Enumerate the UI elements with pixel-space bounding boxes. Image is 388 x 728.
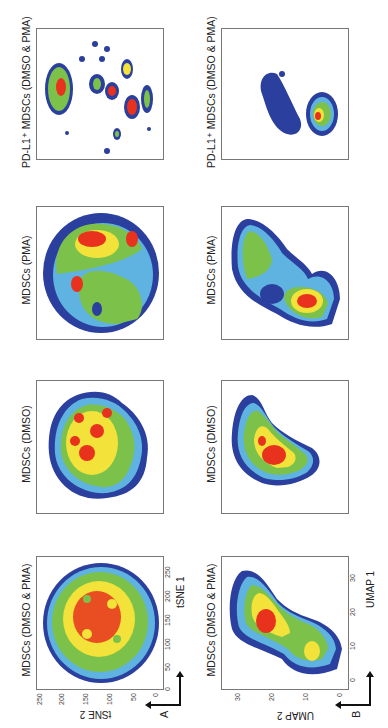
y-axis-arrow-b	[340, 704, 370, 706]
y-tick: 200	[58, 693, 65, 705]
plot-title: MDSCs (DMSO)	[205, 374, 217, 514]
density-map	[37, 29, 163, 159]
plot-a-dmso: MDSCs (DMSO)	[20, 374, 180, 514]
plot-area	[221, 28, 349, 160]
x-axis-arrowhead-b	[366, 671, 374, 677]
panel-letter-a: A	[158, 711, 170, 718]
x-tick: 30	[349, 574, 356, 582]
y-tick: 0	[152, 693, 159, 697]
plot-area	[36, 206, 164, 340]
x-tick: 0	[164, 687, 171, 691]
plot-a-pdl1: PD-L1⁺ MDSCs (DMSO & PMA)	[20, 8, 180, 168]
y-tick: 250	[36, 693, 43, 705]
x-tick: 20	[349, 608, 356, 616]
x-tick: 250	[164, 566, 171, 578]
plot-title: MDSCs (PMA)	[205, 200, 217, 340]
plot-b-dmso-pma: MDSCs (DMSO & PMA) 0 10 20 30	[205, 550, 365, 690]
y-tick: 30	[234, 693, 241, 701]
y-tick: 150	[82, 693, 89, 705]
plot-area	[221, 206, 349, 340]
density-map	[222, 557, 348, 689]
density-map	[222, 207, 348, 339]
plot-title: MDSCs (DMSO)	[20, 374, 32, 514]
y-tick: 100	[106, 693, 113, 705]
plot-b-dmso: MDSCs (DMSO)	[205, 374, 365, 514]
density-map	[37, 381, 163, 513]
density-map	[37, 557, 163, 689]
x-tick: 0	[349, 678, 356, 682]
panel-letter-b: B	[350, 711, 362, 718]
plot-area	[36, 380, 164, 514]
y-axis-arrow-a	[150, 704, 180, 706]
plot-title: PD-L1⁺ MDSCs (DMSO & PMA)	[20, 18, 32, 168]
plot-b-pma: MDSCs (PMA)	[205, 200, 365, 340]
density-map	[222, 29, 348, 159]
plot-area	[36, 556, 164, 690]
plot-title: MDSCs (PMA)	[20, 200, 32, 340]
plot-title: PD-L1⁺ MDSCs (DMSO & PMA)	[205, 18, 217, 168]
density-map	[37, 207, 163, 339]
x-tick: 150	[164, 614, 171, 626]
y-tick: 20	[268, 693, 275, 701]
y-axis-label-b: UMAP 2	[277, 710, 314, 721]
plot-title: MDSCs (DMSO & PMA)	[205, 550, 217, 690]
y-axis-label-a: tSNE 2	[80, 709, 112, 720]
plot-area	[221, 380, 349, 514]
plot-area	[36, 28, 164, 160]
x-axis-label-b: UMAP 1	[365, 571, 376, 608]
plot-area	[221, 556, 349, 690]
plot-b-pdl1: PD-L1⁺ MDSCs (DMSO & PMA)	[205, 8, 365, 168]
y-tick: 50	[130, 693, 137, 701]
y-axis-arrowhead-a	[145, 701, 151, 709]
x-axis-arrow-b	[369, 676, 371, 706]
y-axis-arrowhead-b	[335, 701, 341, 709]
plot-title: MDSCs (DMSO & PMA)	[20, 550, 32, 690]
figure: A tSNE 2 tSNE 1 MDSCs (DMSO & PMA) 0 50 …	[0, 0, 388, 728]
x-tick: 50	[164, 663, 171, 671]
x-tick: 200	[164, 590, 171, 602]
plot-a-dmso-pma: MDSCs (DMSO & PMA) 0 50 100 150 200 250	[20, 550, 180, 690]
plot-a-pma: MDSCs (PMA)	[20, 200, 180, 340]
density-map	[222, 381, 348, 513]
y-tick: 0	[336, 693, 343, 697]
y-tick: 10	[302, 693, 309, 701]
x-tick: 10	[349, 642, 356, 650]
x-tick: 100	[164, 638, 171, 650]
